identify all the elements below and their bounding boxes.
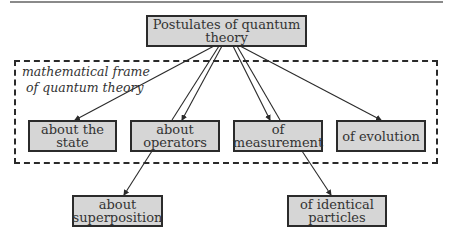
node-state-label: about the state: [30, 123, 115, 149]
edge-measurement-identical: [302, 151, 331, 195]
node-about-superposition: about superposition: [72, 195, 163, 227]
edge-root-state: [75, 46, 214, 120]
node-identical-line2: particles: [308, 211, 365, 224]
node-about-operators: about operators: [130, 120, 220, 152]
node-of-measurement: of measurement: [233, 120, 323, 152]
edge-root-superposition: [172, 46, 219, 120]
node-of-evolution: of evolution: [336, 120, 426, 152]
edge-root-identical: [237, 46, 280, 120]
node-evolution-label: of evolution: [342, 130, 420, 143]
node-measurement-label: of measurement: [233, 123, 323, 149]
edge-root-measurement: [233, 46, 270, 120]
node-of-identical-particles: of identical particles: [287, 195, 387, 227]
node-operators-label: about operators: [132, 123, 218, 149]
node-about-the-state: about the state: [28, 120, 117, 152]
node-postulates-label: Postulates of quantum theory: [148, 18, 305, 44]
node-superposition-line2: superposition: [73, 211, 163, 224]
edge-root-operators: [182, 46, 222, 120]
edge-root-evolution: [240, 46, 381, 120]
edge-operators-superposition: [124, 151, 152, 195]
node-postulates: Postulates of quantum theory: [146, 15, 307, 47]
